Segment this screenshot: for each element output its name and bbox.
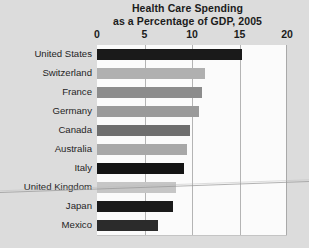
bar-france [97,87,202,98]
bar-japan [97,201,173,212]
bar-row: United Kingdom [0,178,309,197]
x-axis-tick-label-5: 5 [142,28,148,40]
chart-title-line-1: Health Care Spending [132,2,243,14]
chart-title: Health Care Spending as a Percentage of … [70,2,305,27]
category-label-united-states: United States [0,48,92,59]
bar-germany [97,106,199,117]
bar-row: Italy [0,159,309,178]
category-label-united-kingdom: United Kingdom [0,181,92,192]
x-axis-tick-label-15: 15 [234,28,246,40]
bar-rows: United StatesSwitzerlandFranceGermanyCan… [0,45,309,235]
bar-row: Canada [0,121,309,140]
x-axis-tick-label-20: 20 [281,28,293,40]
bar-row: Australia [0,140,309,159]
x-axis-tick-labels: 05101520 [0,28,309,42]
category-label-mexico: Mexico [0,219,92,230]
category-label-australia: Australia [0,143,92,154]
bar-mexico [97,220,158,231]
bar-italy [97,163,184,174]
bar-united-states [97,49,242,60]
bar-australia [97,144,187,155]
chart-title-line-2: as a Percentage of GDP, 2005 [70,15,305,28]
x-axis-tick-label-10: 10 [186,28,198,40]
bar-row: France [0,83,309,102]
bar-row: Mexico [0,216,309,235]
bar-row: Japan [0,197,309,216]
plot-bottom-rule [97,235,287,236]
bar-row: United States [0,45,309,64]
category-label-germany: Germany [0,105,92,116]
bar-row: Germany [0,102,309,121]
bar-united-kingdom [97,182,176,193]
bar-row: Switzerland [0,64,309,83]
category-label-italy: Italy [0,162,92,173]
bar-canada [97,125,190,136]
bar-switzerland [97,68,205,79]
category-label-switzerland: Switzerland [0,67,92,78]
category-label-canada: Canada [0,124,92,135]
x-axis-tick-label-0: 0 [94,28,100,40]
category-label-japan: Japan [0,200,92,211]
health-care-spending-bar-chart: Health Care Spending as a Percentage of … [0,0,309,248]
category-label-france: France [0,86,92,97]
